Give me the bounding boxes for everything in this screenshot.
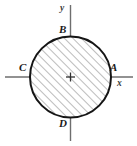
circle-cross-section-figure: A B C D x y [0, 0, 137, 146]
point-label-c: C [19, 62, 26, 73]
point-label-d: D [59, 118, 67, 129]
point-label-a: A [110, 62, 117, 73]
x-axis-label: x [117, 79, 122, 89]
point-label-b: B [59, 24, 66, 35]
y-axis-label: y [60, 4, 64, 14]
figure-canvas [0, 0, 137, 146]
